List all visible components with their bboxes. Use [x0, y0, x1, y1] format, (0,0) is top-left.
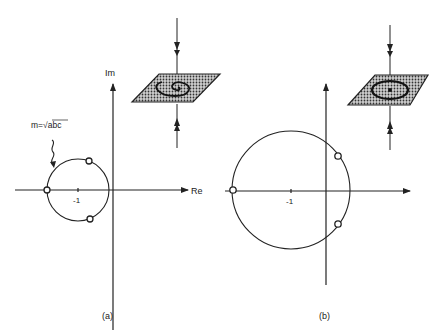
inset-b-arrow-down-icon [387, 44, 393, 52]
panel-a: Re Im -1 m=√abc (a) [15, 68, 203, 330]
pointer-arrowhead-icon [50, 161, 56, 168]
panel-b-root-2 [335, 153, 341, 159]
panel-a-root-2 [86, 158, 92, 164]
panel-a-root-1 [44, 187, 50, 193]
pointer-squiggle-icon [51, 140, 54, 165]
panel-a-im-label: Im [105, 68, 115, 78]
inset-a-arrow-down-2-icon [174, 50, 180, 56]
inset-b-arrow-down-2-icon [387, 51, 393, 57]
panel-b-caption: (b) [319, 311, 330, 321]
panel-b-root-1 [230, 187, 236, 193]
panel-b-tick-label: -1 [286, 197, 294, 206]
inset-a-plane [132, 74, 220, 102]
panel-a-tick-label: -1 [73, 196, 81, 205]
panel-a-re-label: Re [191, 186, 203, 196]
panel-b: -1 (b) [225, 84, 410, 321]
inset-b-orbit [348, 25, 428, 150]
figure-canvas: Re Im -1 m=√abc (a) -1 [0, 0, 442, 336]
panel-a-root-3 [87, 216, 93, 222]
panel-a-caption: (a) [102, 311, 113, 321]
inset-b-center-dot [388, 88, 392, 92]
panel-a-annotation: m=√abc [31, 120, 62, 130]
panel-b-root-3 [335, 221, 341, 227]
inset-a-arrow-down-icon [174, 42, 180, 50]
inset-a-spiral [132, 18, 220, 148]
